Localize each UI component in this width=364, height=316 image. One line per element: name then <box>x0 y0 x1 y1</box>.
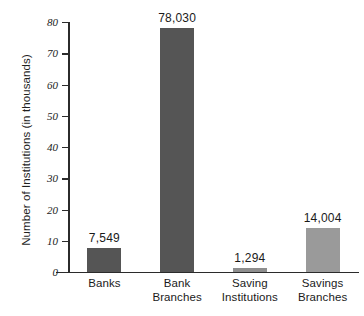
y-tick-label: 70 <box>24 47 58 59</box>
y-tick-label: 40 <box>24 141 58 153</box>
bar-value-label: 1,294 <box>234 251 265 265</box>
x-axis-category-label: SavingInstitutions <box>214 277 287 304</box>
bar: 7,549 <box>87 248 121 272</box>
y-tick-mark <box>62 272 69 273</box>
y-tick-label: 30 <box>24 172 58 184</box>
y-tick-label: 0 <box>24 266 58 278</box>
bar: 78,030 <box>160 28 194 272</box>
plot-area: 7,54978,0301,29414,004 <box>68 22 359 272</box>
x-axis-category-label: Banks <box>68 277 141 291</box>
bar: 1,294 <box>233 268 267 272</box>
y-tick-label: 10 <box>24 235 58 247</box>
bar-value-label: 14,004 <box>304 211 342 225</box>
x-axis-category-label: SavingsBranches <box>286 277 359 304</box>
y-tick-label: 50 <box>24 110 58 122</box>
bar-chart: Number of Institutions (in thousands) 01… <box>0 0 364 316</box>
y-tick-label: 60 <box>24 79 58 91</box>
bar-value-label: 7,549 <box>89 231 120 245</box>
x-axis-category-label: BankBranches <box>141 277 214 304</box>
bar: 14,004 <box>306 228 340 272</box>
y-tick-label: 80 <box>24 16 58 28</box>
y-tick-label: 20 <box>24 204 58 216</box>
bar-value-label: 78,030 <box>158 11 196 25</box>
